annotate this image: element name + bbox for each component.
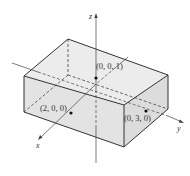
y-axis-label: y [176,124,181,133]
y-arrow-icon [179,120,185,124]
label-point-0-0-1: (0, 0, 1) [96,61,123,71]
diagram-canvas: (0, 0, 1) (2, 0, 0) (0, 3, 0) z y x [0,0,190,176]
box-diagram: (0, 0, 1) (2, 0, 0) (0, 3, 0) z y x [0,0,190,176]
z-arrow-icon [94,13,97,18]
z-axis-label: z [88,12,93,21]
label-point-2-0-0: (2, 0, 0) [40,103,67,113]
x-axis-label: x [35,141,40,150]
x-arrow-icon [38,135,43,140]
label-point-0-3-0: (0, 3, 0) [124,113,151,123]
point-2-0-0 [69,111,72,114]
point-0-0-1 [94,76,97,79]
